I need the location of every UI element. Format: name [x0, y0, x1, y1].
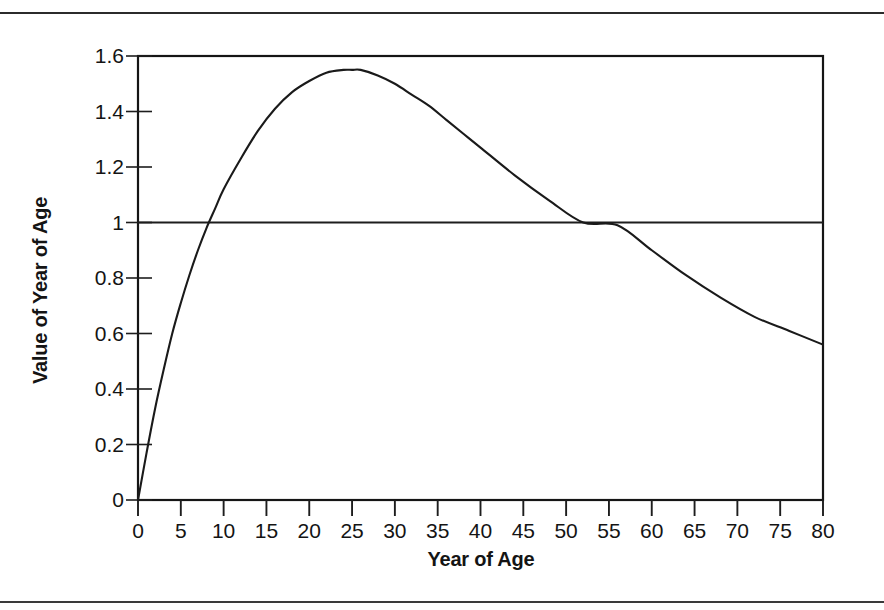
data-series-line — [138, 69, 823, 500]
page-rule-bottom — [0, 601, 884, 603]
plot-area — [0, 14, 884, 600]
plot-frame — [138, 56, 823, 500]
chart-figure: Value of Year of Age Year of Age 00.20.4… — [0, 14, 884, 600]
